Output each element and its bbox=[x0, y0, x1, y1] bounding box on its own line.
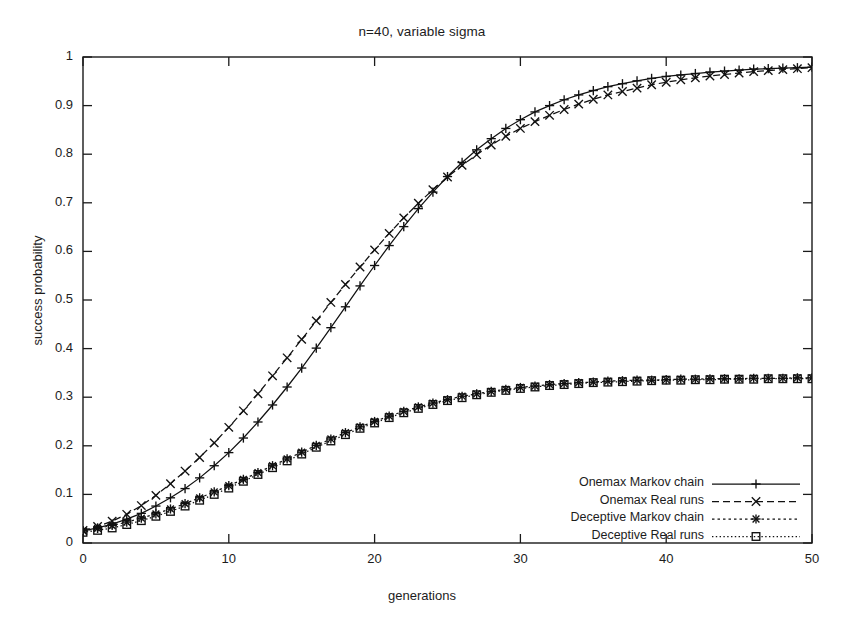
data-series-group bbox=[78, 63, 816, 537]
y-tick-label: 0.2 bbox=[13, 437, 73, 452]
data-marker bbox=[691, 69, 700, 78]
data-marker bbox=[370, 261, 379, 270]
y-tick-label: 1 bbox=[13, 48, 73, 63]
data-marker bbox=[298, 335, 306, 343]
y-tick-label: 0.7 bbox=[13, 194, 73, 209]
data-marker bbox=[225, 423, 233, 431]
data-marker bbox=[239, 407, 247, 415]
data-marker bbox=[560, 95, 569, 104]
data-marker bbox=[210, 439, 218, 447]
series-line bbox=[83, 68, 812, 531]
data-marker bbox=[166, 480, 174, 488]
series-line bbox=[83, 67, 812, 531]
data-marker bbox=[516, 124, 524, 132]
data-marker bbox=[778, 64, 787, 73]
data-marker bbox=[751, 514, 760, 523]
data-marker bbox=[356, 263, 364, 271]
data-marker bbox=[341, 280, 349, 288]
data-marker bbox=[400, 214, 408, 222]
y-tick-label: 0.6 bbox=[13, 242, 73, 257]
data-marker bbox=[326, 323, 335, 332]
data-marker bbox=[618, 87, 626, 95]
axis-ticks bbox=[83, 57, 812, 543]
data-marker bbox=[575, 100, 583, 108]
series-0 bbox=[78, 63, 816, 536]
x-tick-label: 10 bbox=[199, 551, 259, 566]
data-marker bbox=[312, 317, 320, 325]
series-1 bbox=[79, 63, 816, 534]
legend-item-0: Onemax Markov chain bbox=[444, 475, 704, 489]
data-marker bbox=[166, 493, 175, 502]
data-marker bbox=[501, 124, 510, 133]
chart-figure: n=40, variable sigma success probability… bbox=[0, 0, 844, 623]
legend-line-samples bbox=[712, 479, 800, 540]
data-marker bbox=[152, 491, 160, 499]
data-marker bbox=[618, 79, 627, 88]
data-marker bbox=[385, 229, 393, 237]
data-marker bbox=[137, 501, 145, 509]
axes-frame bbox=[83, 57, 812, 543]
data-marker bbox=[341, 302, 350, 311]
data-marker bbox=[589, 86, 598, 95]
data-marker bbox=[327, 298, 335, 306]
data-marker bbox=[604, 91, 612, 99]
data-marker bbox=[531, 117, 539, 125]
data-marker bbox=[268, 372, 276, 380]
x-tick-label: 20 bbox=[345, 551, 405, 566]
legend-item-1: Onemax Real runs bbox=[444, 493, 704, 507]
data-marker bbox=[545, 101, 554, 110]
data-marker bbox=[560, 105, 568, 113]
plot-frame bbox=[83, 57, 812, 543]
data-marker bbox=[764, 64, 773, 73]
data-marker bbox=[370, 246, 378, 254]
data-marker bbox=[180, 484, 189, 493]
x-tick-label: 0 bbox=[53, 551, 113, 566]
data-marker bbox=[181, 467, 189, 475]
data-marker bbox=[502, 132, 510, 140]
legend-item-3: Deceptive Real runs bbox=[444, 528, 704, 542]
data-marker bbox=[603, 82, 612, 91]
data-marker bbox=[516, 115, 525, 124]
y-tick-label: 0.9 bbox=[13, 97, 73, 112]
x-tick-label: 40 bbox=[636, 551, 696, 566]
data-marker bbox=[283, 354, 291, 362]
data-marker bbox=[312, 344, 321, 353]
data-marker bbox=[676, 70, 685, 79]
plot-area bbox=[0, 0, 844, 623]
y-tick-label: 0.4 bbox=[13, 340, 73, 355]
data-marker bbox=[530, 107, 539, 116]
y-tick-label: 0.1 bbox=[13, 485, 73, 500]
data-marker bbox=[793, 63, 802, 72]
y-tick-label: 0.5 bbox=[13, 291, 73, 306]
x-tick-label: 30 bbox=[490, 551, 550, 566]
data-marker bbox=[751, 479, 760, 488]
y-tick-label: 0 bbox=[13, 534, 73, 549]
legend-item-2: Deceptive Markov chain bbox=[444, 510, 704, 524]
data-marker bbox=[195, 453, 203, 461]
data-marker bbox=[545, 111, 553, 119]
data-marker bbox=[589, 95, 597, 103]
y-tick-label: 0.3 bbox=[13, 388, 73, 403]
data-marker bbox=[355, 281, 364, 290]
y-tick-label: 0.8 bbox=[13, 145, 73, 160]
data-marker bbox=[574, 90, 583, 99]
data-marker bbox=[254, 390, 262, 398]
x-tick-label: 50 bbox=[782, 551, 842, 566]
